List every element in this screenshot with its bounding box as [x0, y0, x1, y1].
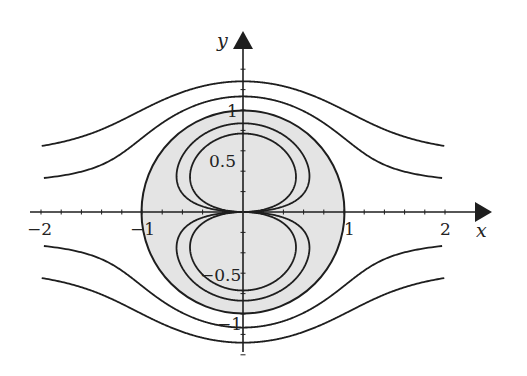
x-tick-label-neg2: −2: [27, 219, 52, 239]
x-tick-label-2: 2: [440, 219, 451, 239]
y-tick-label-1: 1: [227, 101, 238, 121]
plot-canvas: x y −2 −1 1 2 1 0.5 −0.5 −1: [0, 0, 527, 376]
y-axis-arrowhead-icon: [233, 31, 253, 49]
y-tick-label-0.5: 0.5: [209, 151, 236, 171]
y-axis-label: y: [216, 29, 228, 51]
x-axis-label: x: [476, 219, 487, 241]
x-tick-label-neg1: −1: [130, 219, 155, 239]
x-tick-label-1: 1: [344, 219, 355, 239]
y-tick-label-neg1: −1: [217, 314, 242, 334]
streamline-diagram: x y −2 −1 1 2 1 0.5 −0.5 −1: [0, 0, 527, 376]
y-tick-label-neg0.5: −0.5: [200, 265, 241, 285]
